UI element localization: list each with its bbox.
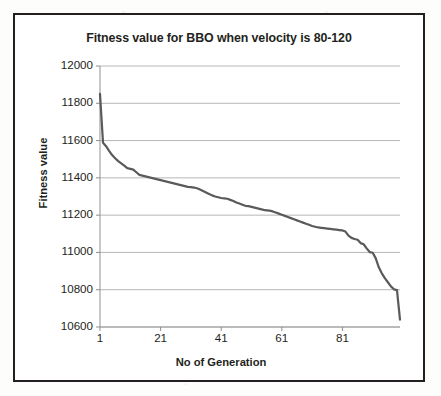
x-axis-tick-label: 61 [262, 331, 302, 344]
figure-page: Fitness value for BBO when velocity is 8… [0, 0, 441, 396]
fitness-curve-line [100, 94, 400, 320]
chart-figure-frame: Fitness value for BBO when velocity is 8… [13, 13, 425, 382]
gridlines-group [100, 66, 400, 327]
x-axis-tick-label: 81 [322, 331, 362, 344]
x-axis-title: No of Generation [15, 356, 427, 368]
axis-lines-group [100, 66, 400, 327]
plot-wrapper: Fitness value 12000118001160011400112001… [15, 15, 427, 384]
x-axis-tick-label: 1 [80, 331, 120, 344]
x-axis-tick-label: 21 [141, 331, 181, 344]
chart-plot-area [15, 15, 427, 384]
x-axis-tick-label: 41 [201, 331, 241, 344]
